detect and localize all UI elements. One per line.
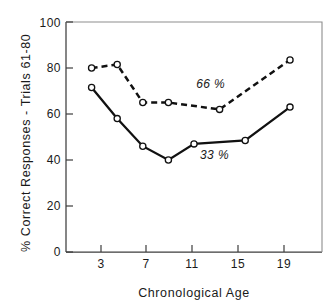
data-point-marker [140,99,146,105]
data-point-marker [140,143,146,149]
x-tick-label-15: 15 [231,257,245,271]
data-point-marker [191,141,197,147]
x-axis-label: Chronological Age [138,286,250,300]
line-chart-svg: % Correct Responses - Trials 61-80 0 20 … [0,0,331,306]
series-annotation-layer: 66 %33 % [196,77,229,162]
y-tick-label-0: 0 [54,245,61,259]
series-line-solid [92,88,290,160]
x-tick-label-7: 7 [142,257,149,271]
data-point-marker [287,57,293,63]
y-tick-label-80: 80 [47,61,61,75]
y-tick-label-100: 100 [39,16,61,30]
y-tick-label-20: 20 [47,199,61,213]
x-axis-ticks: 3 7 11 15 19 [97,245,291,271]
series-annotation-1: 66 % [196,77,225,91]
y-tick-label-60: 60 [47,107,61,121]
series-annotation-2: 33 % [200,148,229,162]
plot-frame [66,22,322,252]
x-tick-label-19: 19 [277,257,291,271]
series-2 [89,84,294,163]
data-point-marker [287,104,293,110]
series-line-dashed [92,60,290,109]
series-1 [89,57,294,113]
y-tick-label-40: 40 [47,153,61,167]
plot-frame-border [66,22,322,252]
data-point-marker [89,65,95,71]
x-tick-label-11: 11 [185,257,198,271]
y-axis-ticks: 0 20 40 60 80 100 [39,16,73,259]
chart-figure: % Correct Responses - Trials 61-80 0 20 … [0,0,331,306]
data-point-marker [89,84,95,90]
data-point-marker [165,157,171,163]
y-axis-label: % Correct Responses - Trials 61-80 [19,34,33,252]
data-point-marker [114,116,120,122]
data-point-marker [165,99,171,105]
data-point-marker [114,61,120,67]
data-point-marker [242,137,248,143]
x-tick-label-3: 3 [97,257,104,271]
data-point-marker [217,106,223,112]
data-series-layer [89,57,294,163]
